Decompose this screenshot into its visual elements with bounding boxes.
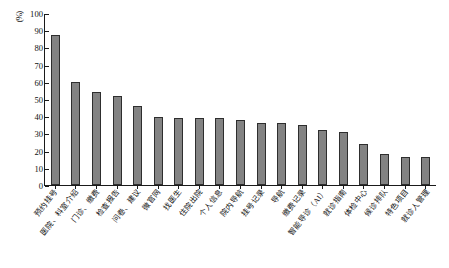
bar[interactable] <box>174 118 183 185</box>
bar[interactable] <box>195 118 204 185</box>
y-axis-label: (%) <box>15 9 23 25</box>
y-axis-tick-label: 10 <box>23 165 43 173</box>
y-axis-tick-label: 80 <box>23 44 43 52</box>
bar-slot <box>168 14 189 185</box>
y-axis-tick-label: 70 <box>23 62 43 70</box>
y-axis-tick-label: 50 <box>23 96 43 104</box>
bar[interactable] <box>133 106 142 185</box>
bar-slot <box>107 14 128 185</box>
bar[interactable] <box>359 144 368 185</box>
bar[interactable] <box>380 154 389 185</box>
bar-slot <box>271 14 292 185</box>
bar-slot <box>189 14 210 185</box>
bar-slot <box>395 14 416 185</box>
x-axis-labels: 预约挂号医院、科室介绍门诊、缴费检查报告问卷、建议微官网找医生住院出院个人信息院… <box>44 188 436 266</box>
bar[interactable] <box>401 157 410 185</box>
bar[interactable] <box>298 125 307 185</box>
y-axis-tick-label: 100 <box>23 10 43 18</box>
bar[interactable] <box>113 96 122 185</box>
bar-slot <box>333 14 354 185</box>
bar[interactable] <box>421 157 430 185</box>
bar-slot <box>45 14 66 185</box>
bar-slot <box>148 14 169 185</box>
y-axis-tick-label: 60 <box>23 79 43 87</box>
bar[interactable] <box>339 132 348 185</box>
y-axis-tick-label: 0 <box>23 182 43 190</box>
bar[interactable] <box>92 92 101 185</box>
bar-slot <box>127 14 148 185</box>
bar-slot <box>354 14 375 185</box>
bar-slot <box>415 14 436 185</box>
x-axis-tick-label: 导航 <box>270 188 286 206</box>
bar-slot <box>210 14 231 185</box>
bar[interactable] <box>71 82 80 185</box>
bar-slot <box>230 14 251 185</box>
y-axis-tick-label: 40 <box>23 113 43 121</box>
y-axis-tick-mark <box>45 186 49 187</box>
bar[interactable] <box>51 35 60 185</box>
bar[interactable] <box>154 117 163 185</box>
y-axis-tick-label: 30 <box>23 130 43 138</box>
bar[interactable] <box>277 123 286 185</box>
bar-slot <box>86 14 107 185</box>
bar-slot <box>374 14 395 185</box>
bar-slot <box>251 14 272 185</box>
bar-slot <box>66 14 87 185</box>
bar[interactable] <box>215 118 224 185</box>
y-axis-tick-label: 90 <box>23 27 43 35</box>
bar[interactable] <box>318 130 327 185</box>
bar[interactable] <box>236 120 245 185</box>
bar-chart: (%) 0102030405060708090100 预约挂号医院、科室介绍门诊… <box>0 0 449 268</box>
x-axis-tick-label: 微官网 <box>142 188 163 212</box>
bar[interactable] <box>257 123 266 185</box>
y-axis-tick-label: 20 <box>23 148 43 156</box>
bar-slot <box>313 14 334 185</box>
bar-series <box>45 14 436 185</box>
bar-slot <box>292 14 313 185</box>
plot-area: 0102030405060708090100 <box>44 14 436 186</box>
